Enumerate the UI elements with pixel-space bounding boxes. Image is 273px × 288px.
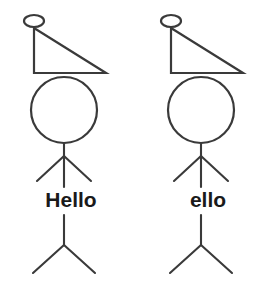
- leg-right-left: [64, 245, 95, 273]
- leg-right-right: [201, 245, 232, 273]
- hat-knob-icon-left: [24, 15, 44, 27]
- arm-right-left: [64, 156, 91, 181]
- right-figure-label: ello: [190, 188, 226, 211]
- legs-right: [170, 245, 232, 273]
- legs-left: [33, 245, 95, 273]
- stick-figures-illustration: Hello ello: [0, 0, 273, 288]
- left-figure-hat: [24, 15, 106, 73]
- head-circle-right: [168, 77, 234, 143]
- arm-left-left: [37, 156, 64, 181]
- arm-left-right: [174, 156, 201, 181]
- drawing-canvas: Hello ello: [0, 0, 273, 288]
- hat-knob-icon-right: [161, 15, 181, 27]
- right-figure: ello: [161, 15, 243, 273]
- right-figure-hat: [161, 15, 243, 73]
- leg-left-left: [33, 245, 64, 273]
- leg-left-right: [170, 245, 201, 273]
- left-figure-label: Hello: [45, 188, 96, 211]
- arm-right-right: [201, 156, 228, 181]
- hat-triangle-left: [34, 28, 106, 73]
- left-figure: Hello: [24, 15, 106, 273]
- head-circle-left: [31, 77, 97, 143]
- hat-triangle-right: [171, 28, 243, 73]
